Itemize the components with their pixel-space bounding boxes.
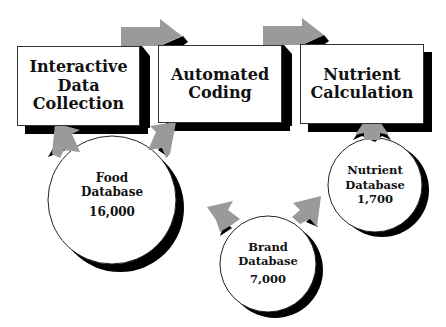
box-label-line: Interactive [29, 58, 127, 76]
db-name-line: Brand [248, 240, 288, 254]
box-label-line: Automated [171, 66, 269, 84]
box-label-line: Nutrient [323, 66, 400, 84]
db-count: 1,700 [357, 192, 393, 206]
box-label-line: Calculation [311, 84, 414, 102]
food-database-label: Food Database 16,000 [62, 160, 162, 230]
db-name-line: Nutrient [347, 163, 403, 177]
nutrient-database-label: Nutrient Database 1,700 [335, 158, 415, 212]
db-name-line: Database [81, 185, 143, 199]
db-count: 7,000 [250, 272, 286, 286]
box-label-line: Data [58, 77, 100, 95]
box-label-line: Collection [33, 95, 124, 113]
db-name-line: Food [96, 171, 128, 185]
arrow-up-right-icon [292, 196, 321, 227]
db-name-line: Database [238, 254, 297, 268]
nutrient-calculation-box: Nutrient Calculation [300, 44, 424, 124]
box-label-line: Coding [188, 84, 252, 102]
interactive-data-collection-box: Interactive Data Collection [17, 46, 140, 126]
db-count: 16,000 [89, 205, 135, 219]
brand-database-label: Brand Database 7,000 [228, 232, 308, 294]
db-name-line: Database [345, 178, 404, 192]
automated-coding-box: Automated Coding [158, 45, 282, 123]
nutrient-data-system-diagram: Interactive Data Collection Automated Co… [0, 0, 446, 327]
